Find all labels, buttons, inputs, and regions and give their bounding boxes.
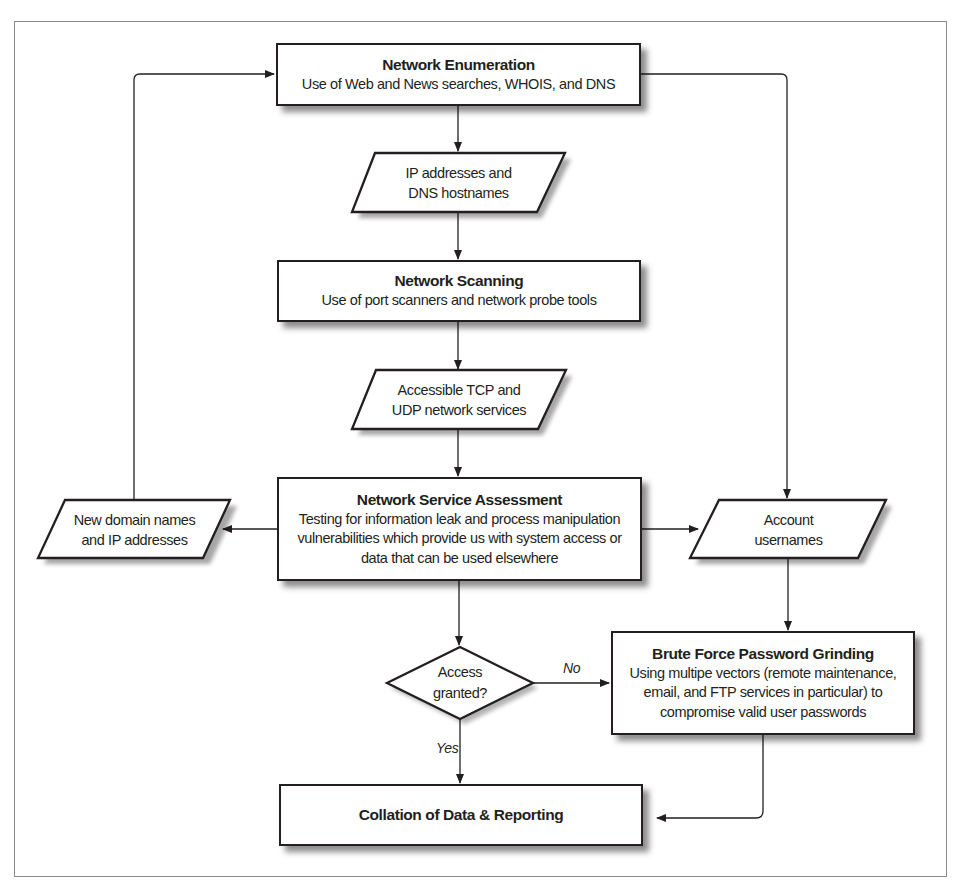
node-description-line: Testing for information leak and process…: [299, 510, 620, 530]
edge-domains-to-enum: [134, 74, 274, 500]
node-description-line: vulnerabilities which provide us with sy…: [297, 529, 621, 549]
node-account-usernames: Account usernames: [690, 500, 887, 559]
connectors: [0, 0, 963, 893]
node-title: Collation of Data & Reporting: [359, 805, 564, 825]
node-collation: Collation of Data & Reporting: [279, 784, 643, 846]
node-brute-force: Brute Force Password Grinding Using mult…: [611, 631, 915, 735]
node-access-granted: Access granted?: [386, 646, 534, 720]
node-accessible-services: Accessible TCP and UDP network services: [352, 370, 566, 430]
node-title: Network Scanning: [395, 271, 524, 291]
edge-brute-to-collation: [657, 735, 763, 818]
node-text-line: Account: [764, 510, 814, 530]
node-text-line: Accessible TCP and: [398, 380, 521, 400]
node-ip-addresses: IP addresses and DNS hostnames: [352, 153, 565, 213]
node-title: Network Enumeration: [382, 55, 535, 75]
node-title: Network Service Assessment: [357, 490, 562, 510]
node-text-line: IP addresses and: [405, 163, 511, 183]
node-description: Use of port scanners and network probe t…: [322, 291, 597, 311]
node-description-line: email, and FTP services in particular) t…: [644, 683, 883, 703]
node-text-line: Access: [438, 662, 482, 683]
node-text-line: usernames: [754, 530, 822, 550]
node-description-line: Using multipe vectors (remote maintenanc…: [630, 664, 897, 684]
node-network-scanning: Network Scanning Use of port scanners an…: [277, 260, 641, 322]
edge-enum-to-accounts: [641, 74, 787, 498]
node-description: Use of Web and News searches, WHOIS, and…: [302, 75, 615, 95]
edge-label-yes: Yes: [436, 740, 458, 756]
node-network-enumeration: Network Enumeration Use of Web and News …: [276, 43, 641, 106]
node-title: Brute Force Password Grinding: [652, 644, 874, 664]
node-text-line: granted?: [433, 683, 487, 704]
node-network-service-assessment: Network Service Assessment Testing for i…: [277, 477, 642, 581]
node-text-line: and IP addresses: [81, 530, 187, 550]
node-description-line: compromise valid user passwords: [660, 703, 866, 723]
node-text-line: DNS hostnames: [408, 183, 508, 203]
node-description-line: data that can be used elsewhere: [361, 549, 558, 569]
node-new-domain-names: New domain names and IP addresses: [38, 500, 231, 559]
node-text-line: New domain names: [74, 510, 196, 530]
node-text-line: UDP network services: [392, 400, 526, 420]
edge-label-no: No: [563, 660, 580, 676]
